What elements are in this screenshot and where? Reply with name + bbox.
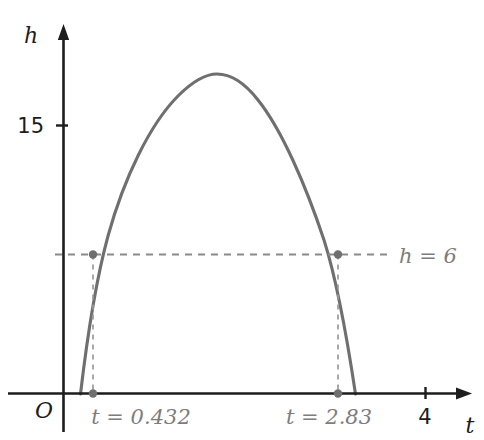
x-tick-label-4: 4 [418, 405, 431, 429]
marker-axis-left [89, 389, 97, 397]
t-right-label: t = 2.83 [286, 405, 372, 429]
marker-group [89, 250, 342, 397]
marker-intersection-right [334, 250, 342, 258]
marker-intersection-left [89, 250, 97, 258]
parabola-chart-svg: h t O 15 4 h = 6 t = 0.432 t = 2.83 [0, 0, 484, 440]
y-axis-arrowhead [58, 24, 69, 40]
t-left-label: t = 0.432 [91, 405, 191, 429]
y-tick-label-15: 15 [17, 114, 44, 138]
curve-group [81, 74, 356, 394]
height-curve [81, 74, 356, 394]
x-axis-arrowhead [456, 388, 472, 400]
drop-lines-group [93, 255, 338, 394]
origin-label: O [35, 398, 53, 423]
y-axis-label: h [24, 23, 38, 48]
axes-group [8, 24, 472, 432]
x-axis-label: t [466, 413, 475, 438]
chart-figure: h t O 15 4 h = 6 t = 0.432 t = 2.83 [0, 0, 484, 440]
h-equals-6-label: h = 6 [399, 244, 457, 268]
marker-axis-right [334, 389, 342, 397]
